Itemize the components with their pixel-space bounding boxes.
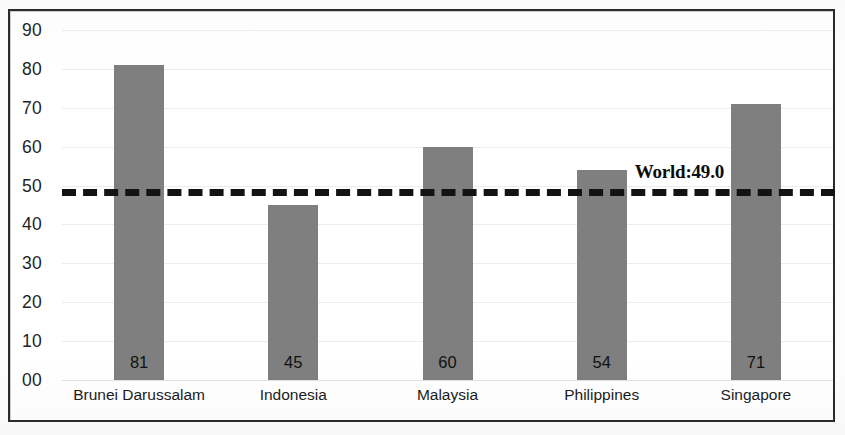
world-average-label: World:49.0: [635, 161, 724, 183]
bar: 54: [577, 170, 627, 380]
bar-value-label: 60: [423, 353, 473, 372]
gridline: [62, 108, 833, 109]
y-axis-tick-label: 00: [22, 370, 58, 391]
gridline: [62, 30, 833, 31]
x-axis-category-label: Malaysia: [370, 386, 524, 404]
y-axis-tick-label: 50: [22, 175, 58, 196]
y-axis-tick-label: 30: [22, 253, 58, 274]
y-axis-tick-label: 70: [22, 97, 58, 118]
y-axis-tick-label: 90: [22, 20, 58, 41]
world-average-reference-line: [62, 189, 835, 196]
x-axis-category-label: Brunei Darussalam: [62, 386, 216, 404]
bar-value-label: 54: [577, 353, 627, 372]
y-axis-tick-label: 60: [22, 136, 58, 157]
y-axis-tick-label: 10: [22, 331, 58, 352]
y-axis-tick-label: 40: [22, 214, 58, 235]
x-axis-category-label: Indonesia: [216, 386, 370, 404]
bar-value-label: 81: [114, 353, 164, 372]
bar: 81: [114, 65, 164, 380]
bar: 45: [268, 205, 318, 380]
bar-chart: 8145605471World:49.0 9080706050403020100…: [0, 0, 845, 435]
bar-value-label: 45: [268, 353, 318, 372]
x-axis-category-label: Philippines: [525, 386, 679, 404]
bar: 71: [731, 104, 781, 380]
y-axis-tick-label: 80: [22, 58, 58, 79]
bar-value-label: 71: [731, 353, 781, 372]
y-axis-tick-label: 20: [22, 292, 58, 313]
gridline: [62, 69, 833, 70]
gridline: [62, 380, 833, 381]
plot-area: 8145605471World:49.0: [62, 30, 833, 380]
bar: 60: [423, 147, 473, 380]
x-axis-category-label: Singapore: [679, 386, 833, 404]
